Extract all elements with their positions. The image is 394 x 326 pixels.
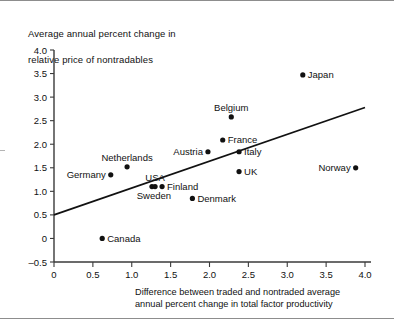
point-label: Austria [173, 146, 203, 157]
point-label: Finland [167, 181, 198, 192]
y-tick-label: 3.5 [34, 68, 47, 79]
x-axis-caption-line-1: Difference between traded and nontraded … [135, 286, 385, 298]
point-label: Norway [318, 162, 350, 173]
point-marker [190, 196, 195, 201]
point-marker [100, 236, 105, 241]
y-tick-label: 2.5 [34, 115, 47, 126]
y-tick-label: 2.0 [34, 139, 47, 150]
x-tick-label: 3.0 [281, 269, 294, 280]
point-marker [229, 114, 234, 119]
x-tick-label: 4.0 [358, 269, 371, 280]
point-marker [152, 184, 157, 189]
x-tick-label: 0.5 [86, 269, 99, 280]
x-axis-caption-line-2: annual percent change in total factor pr… [135, 298, 385, 310]
data-point: Italy [236, 146, 261, 157]
data-point: Austria [173, 146, 210, 157]
data-point: Denmark [190, 193, 236, 204]
data-point: UK [236, 166, 257, 177]
y-tick-label: 3.0 [34, 92, 47, 103]
point-label: Canada [107, 233, 141, 244]
point-label: France [228, 134, 258, 145]
x-tick-label: 2.0 [203, 269, 216, 280]
point-label: Italy [244, 146, 262, 157]
data-point: Japan [300, 69, 333, 80]
data-point: Belgium [214, 102, 248, 119]
x-tick-label: 2.5 [242, 269, 255, 280]
point-label: Denmark [197, 193, 236, 204]
data-point: Canada [100, 233, 142, 244]
point-marker [236, 149, 241, 154]
point-marker [124, 164, 129, 169]
data-point: Norway [318, 162, 358, 173]
point-marker [159, 184, 164, 189]
point-label: Germany [67, 169, 106, 180]
point-label: USA [145, 172, 165, 183]
y-tick-label: 1.0 [34, 186, 47, 197]
point-label: Belgium [214, 102, 248, 113]
point-marker [300, 72, 305, 77]
x-axis-caption: Difference between traded and nontraded … [135, 286, 385, 310]
x-tick-label: 3.5 [320, 269, 333, 280]
y-tick-label: 4.0 [34, 45, 47, 56]
point-label: Netherlands [101, 152, 152, 163]
scatter-plot: –0.500.51.01.52.02.53.03.54.000.51.01.52… [0, 0, 394, 326]
data-point: Netherlands [101, 152, 152, 169]
point-label: Japan [308, 69, 334, 80]
y-tick-label: 0 [42, 233, 47, 244]
point-label: Sweden [137, 190, 171, 201]
point-marker [353, 165, 358, 170]
point-marker [220, 137, 225, 142]
point-marker [108, 172, 113, 177]
x-tick-label: 0 [51, 269, 56, 280]
point-marker [236, 169, 241, 174]
data-point: Germany [67, 169, 114, 180]
point-label: UK [244, 166, 258, 177]
data-points: CanadaGermanyNetherlandsSwedenUSAFinland… [67, 69, 359, 243]
y-tick-label: –0.5 [29, 257, 48, 268]
x-tick-label: 1.5 [164, 269, 177, 280]
chart-figure: Average annual percent change in relativ… [0, 0, 394, 326]
y-tick-label: 0.5 [34, 209, 47, 220]
point-marker [205, 149, 210, 154]
y-tick-label: 1.5 [34, 162, 47, 173]
x-tick-label: 1.0 [125, 269, 138, 280]
data-point: France [220, 134, 257, 145]
